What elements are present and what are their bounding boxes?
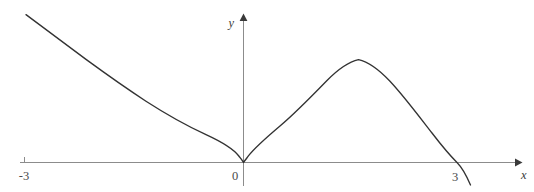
x-axis-arrow-icon	[515, 159, 523, 167]
plot-canvas: y x -3 0 3	[0, 0, 534, 192]
x-tick-label-three: 3	[452, 170, 458, 184]
x-axis-label: x	[520, 168, 527, 182]
x-tick-label-minus-three: -3	[19, 169, 29, 183]
function-curve	[26, 15, 471, 185]
origin-tick-label: 0	[232, 169, 238, 183]
y-axis-label: y	[226, 16, 234, 30]
function-graph-figure: y x -3 0 3	[0, 0, 534, 192]
y-axis-arrow-icon	[240, 14, 248, 22]
